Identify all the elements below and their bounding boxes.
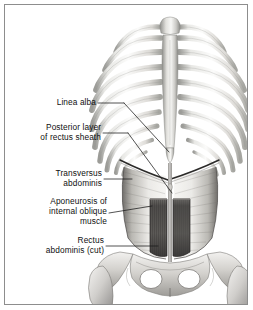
ribs-right — [179, 27, 248, 175]
umbilicus — [168, 184, 173, 191]
label-transversus-abdominis: Transversus abdominis — [56, 168, 102, 188]
label-rectus-abdominis-cut: Rectus abdominis (cut) — [46, 235, 104, 255]
ribs-left — [92, 27, 161, 175]
linea-alba — [168, 163, 173, 262]
label-posterior-layer-of-rectus-sheath: Posterior layer of rectus sheath — [40, 122, 101, 142]
obturator-foramen-left — [140, 270, 162, 289]
sternum — [160, 17, 180, 163]
anatomy-figure: Linea alba Posterior layer of rectus she… — [0, 0, 253, 310]
anatomical-illustration — [0, 0, 253, 310]
obturator-foramen-right — [178, 270, 200, 289]
label-aponeurosis-of-internal-oblique-muscle: Aponeurosis of internal oblique muscle — [49, 196, 107, 227]
label-linea-alba: Linea alba — [57, 97, 96, 107]
leader-linea-alba-diagonal — [124, 103, 169, 152]
